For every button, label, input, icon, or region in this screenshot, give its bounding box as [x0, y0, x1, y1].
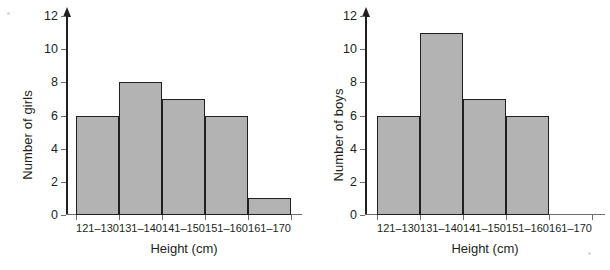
x-tick-mark: [506, 215, 507, 220]
x-tick-mark: [291, 215, 292, 220]
y-tick-label: 2: [51, 175, 58, 189]
x-tick-label: 161–170: [549, 222, 592, 234]
y-tick-label: 10: [44, 42, 58, 56]
x-tick-mark: [549, 215, 550, 220]
x-tick-mark: [592, 215, 593, 220]
y-axis-title-boys: Number of boys: [331, 50, 346, 220]
y-tick-label: 12: [343, 9, 357, 23]
y-tick-label: 12: [44, 9, 58, 23]
x-tick-mark: [162, 215, 163, 220]
y-tick-label: 8: [51, 75, 58, 89]
x-tick-mark: [463, 215, 464, 220]
x-tick-mark: [205, 215, 206, 220]
x-tick-label: 151–160: [205, 222, 248, 234]
y-tick-label: 6: [51, 109, 58, 123]
y-tick-label: 2: [350, 175, 357, 189]
bar-151-160: [506, 116, 549, 216]
x-axis-title-boys: Height (cm): [365, 241, 605, 256]
y-tick-label: 8: [350, 75, 357, 89]
x-tick-label: 121–130: [76, 222, 119, 234]
y-tick-mark: [61, 215, 66, 216]
x-tick-mark: [248, 215, 249, 220]
x-tick-mark: [377, 215, 378, 220]
y-tick-label: 0: [350, 208, 357, 222]
x-tick-label: 141–150: [162, 222, 205, 234]
bar-121-130: [76, 116, 119, 216]
x-tick-label: 131–140: [119, 222, 162, 234]
x-tick-label: 151–160: [506, 222, 549, 234]
y-tick-label: 4: [51, 142, 58, 156]
plot-area-boys: 0 2 4 6 8 10 12 121–130 131–140 141–150: [365, 16, 580, 215]
bar-141-150: [162, 99, 205, 215]
x-tick-mark: [119, 215, 120, 220]
bar-151-160: [205, 116, 248, 216]
y-tick-label: 10: [343, 42, 357, 56]
x-tick-label: 121–130: [377, 222, 420, 234]
y-tick-label: 4: [350, 142, 357, 156]
x-axis-title-girls: Height (cm): [66, 241, 302, 256]
y-tick-label: 0: [51, 208, 58, 222]
bar-141-150: [463, 99, 506, 215]
histogram-figure: Number of girls 0 2 4 6 8 10 12: [0, 0, 610, 270]
x-tick-label: 141–150: [463, 222, 506, 234]
chart-girls: Number of girls 0 2 4 6 8 10 12: [0, 0, 305, 270]
x-tick-mark: [420, 215, 421, 220]
x-tick-label: 131–140: [420, 222, 463, 234]
bar-121-130: [377, 116, 420, 216]
bar-161-170: [248, 198, 291, 215]
bars-girls: [66, 16, 281, 215]
chart-boys: Number of boys 0 2 4 6 8 10 12: [305, 0, 610, 270]
bar-131-140: [420, 33, 463, 215]
y-axis-title-girls: Number of girls: [20, 50, 35, 220]
x-tick-mark: [76, 215, 77, 220]
bar-131-140: [119, 82, 162, 215]
plot-area-girls: 0 2 4 6 8 10 12 121–130 131–140 141–150: [66, 16, 281, 215]
x-tick-label: 161–170: [248, 222, 291, 234]
y-tick-label: 6: [350, 109, 357, 123]
y-tick-mark: [360, 215, 365, 216]
bars-boys: [365, 16, 580, 215]
